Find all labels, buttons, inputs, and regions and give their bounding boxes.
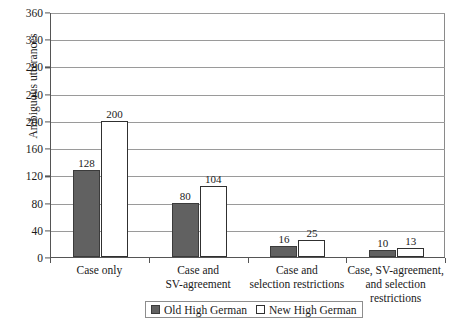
bar-group: 1013 [347,13,446,257]
bar-new-high-german: 200 [101,121,128,257]
category-label-line: SV-agreement [141,277,256,291]
bar-value-label: 13 [405,235,416,248]
bar-old-high-german: 10 [369,250,396,257]
bar-old-high-german: 80 [172,203,199,257]
x-axis-category-label: Case andselection restrictions [240,263,355,291]
category-label-line: Case and [141,263,256,277]
x-axis-category-label: Case, SV-agreement,and selectionrestrict… [338,263,453,305]
y-tick-label: 40 [3,225,43,237]
category-label-line: Case and [240,263,355,277]
y-tick-mark [45,176,50,177]
y-tick-mark [45,12,50,13]
bar-new-high-german: 13 [397,248,424,257]
y-tick-label: 200 [3,116,43,128]
legend-label: New High German [269,304,357,316]
bar-value-label: 104 [205,173,222,186]
category-label-line: selection restrictions [240,277,355,291]
y-tick-mark [45,203,50,204]
y-tick-mark [45,149,50,150]
bar-old-high-german: 16 [270,246,297,257]
y-tick-label: 240 [3,89,43,101]
y-tick-mark [45,121,50,122]
y-tick-label: 80 [3,198,43,210]
filled-gray-square-icon [151,305,160,314]
category-label-line: Case only [42,263,157,277]
bar-value-label: 16 [278,233,289,246]
axis-end-tick [445,258,446,263]
x-axis-category-label: Case only [42,263,157,277]
y-tick-label: 0 [3,252,43,264]
y-tick-label: 320 [3,34,43,46]
bar-value-label: 128 [78,157,95,170]
bar-chart: Ambiguous utterances 1282008010416251013… [0,0,458,330]
axis-end-tick [50,258,51,263]
plot-area: 1282008010416251013 [50,13,445,258]
bar-new-high-german: 25 [298,240,325,257]
bar-group: 128200 [51,13,150,257]
category-label-line: Case, SV-agreement, [338,263,453,277]
bar-value-label: 80 [180,190,191,203]
bar-value-label: 25 [306,227,317,240]
y-tick-mark [45,67,50,68]
bar-old-high-german: 128 [73,170,100,257]
y-tick-label: 280 [3,61,43,73]
bar-group: 80104 [150,13,249,257]
chart-legend: Old High German New High German [145,301,363,318]
y-tick-mark [45,230,50,231]
category-label-line: and selection [338,277,453,291]
y-tick-mark [45,40,50,41]
bar-new-high-german: 104 [200,186,227,257]
legend-item-new-high-german: New High German [256,304,357,316]
y-tick-label: 160 [3,143,43,155]
outlined-white-square-icon [256,305,265,314]
bar-group: 1625 [249,13,348,257]
x-axis-category-label: Case andSV-agreement [141,263,256,291]
bar-value-label: 200 [106,108,123,121]
category-label-line: restrictions [338,291,453,305]
legend-item-old-high-german: Old High German [151,304,247,316]
legend-label: Old High German [164,304,247,316]
y-tick-label: 360 [3,7,43,19]
bar-value-label: 10 [377,237,388,250]
y-tick-label: 120 [3,170,43,182]
y-tick-mark [45,94,50,95]
